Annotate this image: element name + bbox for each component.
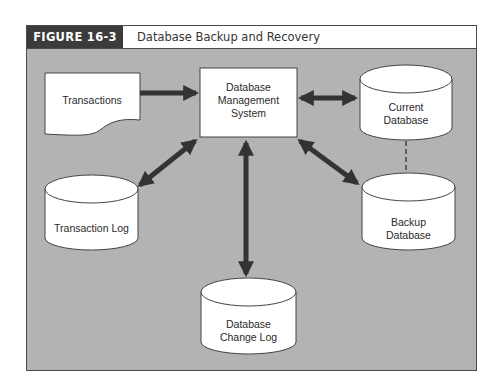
current-db-label-line2: Database [384,114,429,126]
change-log-label-line2: Change Log [220,331,277,343]
current-db-label-line1: Current [388,101,423,113]
transaction-log-label: Transaction Log [54,222,129,234]
dbms-box: Database Management System [200,68,297,137]
transaction-log-cylinder: Transaction Log [45,175,138,250]
transactions-label: Transactions [62,94,122,106]
arrow-dbms-backup-db [300,141,357,183]
backup-database-cylinder: Backup Database [362,173,455,250]
change-log-cylinder: Database Change Log [201,278,296,354]
arrow-dbms-transaction-log [140,141,195,185]
backup-db-label-line2: Database [386,229,431,241]
diagram-canvas: Transactions Database Management System … [0,0,502,390]
dbms-label-line3: System [231,107,266,119]
dbms-label-line1: Database [226,81,271,93]
current-database-cylinder: Current Database [360,65,452,140]
backup-db-label-line1: Backup [391,216,426,228]
dbms-label-line2: Management [218,94,279,106]
change-log-label-line1: Database [226,318,271,330]
transactions-document: Transactions [45,73,140,135]
